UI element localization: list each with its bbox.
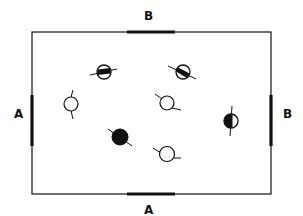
player-symbol-solid [108,129,132,146]
player-symbol-empty [155,94,181,110]
field-boundary [32,32,271,194]
diagram-canvas [0,0,303,216]
label-top: B [144,10,153,22]
label-bottom: A [144,204,153,216]
player-symbol-horizontal-bar [90,65,117,79]
player-symbol-empty [153,147,181,162]
label-right: B [283,108,292,120]
player-symbol-diagonal-bar [168,65,196,79]
label-left: A [14,108,23,120]
player-symbol-empty [64,90,78,119]
player-symbol-vertical-half [224,106,238,136]
